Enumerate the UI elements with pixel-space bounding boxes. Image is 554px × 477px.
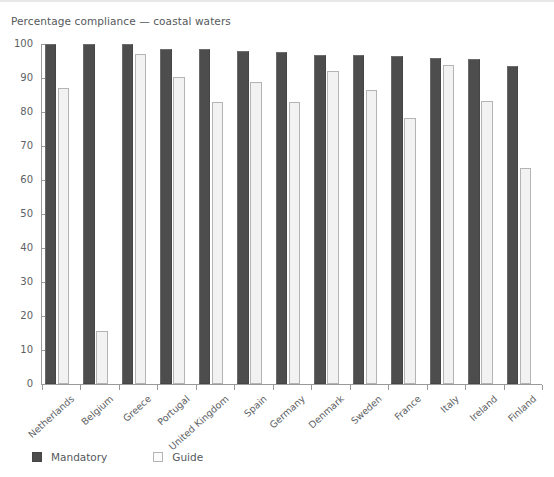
- x-tick-mark: [427, 385, 428, 390]
- x-tick-mark: [80, 385, 81, 390]
- legend-swatch-guide-icon: [153, 452, 163, 462]
- bar-group: [427, 44, 465, 384]
- bar-guide: [520, 168, 532, 384]
- x-tick-mark: [504, 385, 505, 390]
- y-tick-label: 90: [20, 72, 33, 84]
- bar-guide: [135, 54, 147, 384]
- bar-group: [311, 44, 349, 384]
- bar-mandatory: [122, 44, 134, 384]
- bar-mandatory: [237, 51, 249, 384]
- chart-legend: MandatoryGuide: [32, 451, 203, 463]
- bar-group: [234, 44, 272, 384]
- bar-mandatory: [391, 56, 403, 384]
- x-axis-label: Portugal: [155, 393, 192, 428]
- y-tick-label: 60: [20, 174, 33, 186]
- y-tick-label: 50: [20, 208, 33, 220]
- legend-label: Guide: [172, 451, 203, 463]
- x-axis-label: Finland: [506, 393, 539, 424]
- x-axis-label: Italy: [439, 393, 462, 415]
- bar-group: [80, 44, 118, 384]
- x-tick-mark: [273, 385, 274, 390]
- bar-guide: [404, 118, 416, 384]
- y-tick-label: 10: [20, 344, 33, 356]
- bar-group: [157, 44, 195, 384]
- bar-group: [388, 44, 426, 384]
- x-axis-label: Sweden: [349, 393, 384, 426]
- bar-guide: [481, 101, 493, 384]
- bar-mandatory: [468, 59, 480, 384]
- bar-guide: [250, 82, 262, 384]
- y-tick-label: 30: [20, 276, 33, 288]
- bar-guide: [212, 102, 224, 384]
- chart-title: Percentage compliance — coastal waters: [11, 15, 231, 27]
- bar-guide: [327, 71, 339, 384]
- bar-mandatory: [507, 66, 519, 384]
- x-tick-mark: [196, 385, 197, 390]
- plot-area: 0102030405060708090100 NetherlandsBelgiu…: [42, 44, 542, 384]
- legend-label: Mandatory: [51, 451, 107, 463]
- x-axis-label: Ireland: [468, 393, 500, 423]
- x-axis-label: Germany: [268, 393, 308, 430]
- bar-guide: [173, 77, 185, 384]
- legend-swatch-mandatory-icon: [32, 452, 42, 462]
- chart-figure: Percentage compliance — coastal waters 0…: [0, 0, 554, 477]
- x-axis-label: Greece: [121, 393, 153, 424]
- x-axis-label: Spain: [242, 393, 269, 419]
- bar-mandatory: [45, 44, 57, 384]
- x-tick-mark: [350, 385, 351, 390]
- bar-group: [119, 44, 157, 384]
- bar-mandatory: [314, 55, 326, 384]
- x-axis-label: Denmark: [306, 393, 346, 430]
- x-tick-mark: [311, 385, 312, 390]
- y-tick-label: 0: [27, 378, 33, 390]
- bar-mandatory: [353, 55, 365, 384]
- x-tick-mark: [465, 385, 466, 390]
- x-tick-mark: [119, 385, 120, 390]
- bar-mandatory: [83, 44, 95, 384]
- bar-mandatory: [160, 49, 172, 384]
- bar-mandatory: [430, 58, 442, 384]
- bar-group: [504, 44, 542, 384]
- bar-group: [273, 44, 311, 384]
- legend-item[interactable]: Mandatory: [32, 451, 107, 463]
- bar-guide: [366, 90, 378, 384]
- y-tick-label: 40: [20, 242, 33, 254]
- bar-group: [196, 44, 234, 384]
- bar-group: [350, 44, 388, 384]
- bar-guide: [96, 331, 108, 384]
- x-tick-mark: [234, 385, 235, 390]
- x-tick-mark: [42, 385, 43, 390]
- x-axis-label: Netherlands: [26, 393, 76, 440]
- y-tick-label: 20: [20, 310, 33, 322]
- y-tick-label: 100: [14, 38, 33, 50]
- bar-guide: [58, 88, 70, 384]
- bar-guide: [289, 102, 301, 384]
- x-axis-label: France: [392, 393, 423, 422]
- legend-item[interactable]: Guide: [153, 451, 203, 463]
- bar-mandatory: [276, 52, 288, 384]
- bar-group: [42, 44, 80, 384]
- x-axis-line: [41, 384, 542, 385]
- bar-group: [465, 44, 503, 384]
- x-axis-label: Belgium: [79, 393, 115, 427]
- y-tick-label: 80: [20, 106, 33, 118]
- x-tick-mark: [388, 385, 389, 390]
- x-tick-mark: [157, 385, 158, 390]
- x-tick-mark: [542, 385, 543, 390]
- y-tick-label: 70: [20, 140, 33, 152]
- bar-mandatory: [199, 49, 211, 384]
- bar-guide: [443, 65, 455, 384]
